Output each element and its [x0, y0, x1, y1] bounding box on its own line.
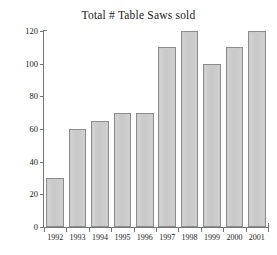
y-axis-tick [40, 96, 44, 97]
x-axis-label: 1995 [111, 233, 133, 242]
x-axis-label: 1997 [156, 233, 178, 242]
y-axis-tick [40, 129, 44, 130]
x-axis-tick [223, 227, 224, 232]
x-axis-label: 1996 [134, 233, 156, 242]
y-axis-tick [40, 64, 44, 65]
x-axis-tick [44, 227, 45, 232]
y-axis-tick [40, 194, 44, 195]
x-axis-tick [156, 227, 157, 232]
bar [136, 113, 154, 227]
x-axis-label: 1993 [66, 233, 88, 242]
bar [91, 121, 109, 227]
bar [203, 64, 221, 227]
x-axis-label: 2001 [246, 233, 268, 242]
x-axis-label: 1999 [201, 233, 223, 242]
x-axis-label: 1994 [89, 233, 111, 242]
bar [158, 47, 176, 227]
y-axis-tick [40, 31, 44, 32]
x-axis-tick [111, 227, 112, 232]
bar [69, 129, 87, 227]
x-axis-label: 1992 [44, 233, 66, 242]
x-axis-tick [134, 227, 135, 232]
y-axis-label: 20 [30, 190, 39, 198]
x-axis-tick [246, 227, 247, 232]
bar [46, 178, 64, 227]
bar [248, 31, 266, 227]
y-axis-label: 40 [30, 158, 39, 166]
y-axis-label: 60 [30, 125, 39, 133]
bar [226, 47, 244, 227]
x-axis-tick [66, 227, 67, 232]
bar-chart: Total # Table Saws sold 020406080100120 … [0, 0, 277, 255]
x-axis-tick [201, 227, 202, 232]
y-axis-tick [40, 162, 44, 163]
x-axis-label: 1998 [178, 233, 200, 242]
y-axis-label: 80 [30, 92, 39, 100]
x-axis-label: 2000 [223, 233, 245, 242]
y-axis-label: 100 [25, 60, 38, 68]
x-axis-tick [178, 227, 179, 232]
y-axis-label: 120 [25, 27, 38, 35]
x-axis-tick [268, 227, 269, 232]
x-axis-tick [89, 227, 90, 232]
bar [114, 113, 132, 227]
chart-title: Total # Table Saws sold [0, 9, 277, 21]
bar [181, 31, 199, 227]
y-axis-label: 0 [34, 223, 38, 231]
